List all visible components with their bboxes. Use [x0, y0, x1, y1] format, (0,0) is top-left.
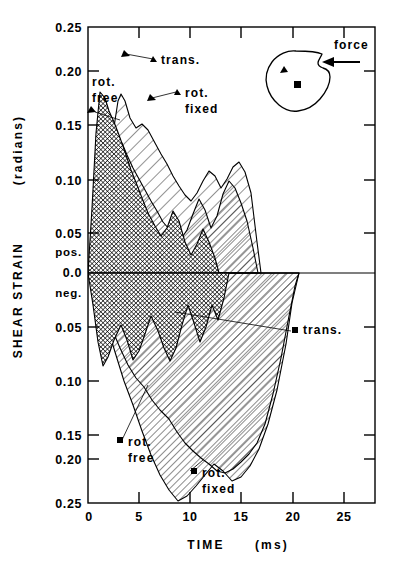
chart-svg: 0.25 0.20 0.15 0.10 0.05 pos. 0.0 neg. 0… [0, 0, 395, 567]
y-negative-label: neg. [55, 287, 82, 299]
y-tick-label: 0.05 [55, 227, 82, 241]
annotation-label-rot-free-upper-line2: free [92, 91, 118, 105]
y-tick-label: 0.20 [55, 453, 82, 467]
shear-strain-figure: 0.25 0.20 0.15 0.10 0.05 pos. 0.0 neg. 0… [0, 0, 395, 567]
x-tick-label: 25 [336, 510, 351, 524]
annotation-label-trans-upper: trans. [161, 53, 200, 67]
square-sensor-marker [294, 81, 301, 88]
y-tick-label: 0.10 [55, 375, 82, 389]
y-axis-title-units: (radians) [11, 115, 25, 185]
x-tick-label: 20 [285, 510, 300, 524]
y-tick-label: 0.20 [55, 65, 82, 79]
y-zero-label: 0.0 [63, 266, 82, 280]
force-label: force [334, 38, 369, 52]
annotation-label-rot-fixed-upper-line2: fixed [185, 102, 219, 116]
x-tick-label: 10 [182, 510, 197, 524]
y-tick-label: 0.25 [55, 21, 82, 35]
annotation-label-trans-lower: trans. [303, 323, 342, 337]
x-axis-title-main: TIME [187, 538, 224, 552]
annotation-label-rot-free-lower-line1: rot. [128, 435, 152, 449]
x-tick-label: 5 [135, 510, 143, 524]
x-axis-title-units: (ms) [255, 538, 289, 552]
y-tick-label: 0.10 [55, 174, 82, 188]
annotation-marker-square [117, 437, 123, 443]
annotation-marker-square [292, 327, 298, 333]
annotation-label-rot-fixed-lower-line2: fixed [202, 482, 236, 496]
y-tick-label: 0.15 [55, 429, 82, 443]
annotation-label-rot-fixed-upper-line1: rot. [185, 86, 209, 100]
y-tick-label: 0.15 [55, 119, 82, 133]
y-axis-title-main: SHEAR STRAIN [11, 242, 25, 358]
x-tick-label: 0 [85, 510, 93, 524]
x-tick-label: 15 [233, 510, 248, 524]
annotation-marker-square [191, 468, 197, 474]
annotation-label-rot-free-upper-line1: rot. [92, 75, 116, 89]
y-positive-label: pos. [55, 246, 82, 258]
annotation-label-rot-fixed-lower-line1: rot. [202, 466, 226, 480]
y-tick-label: 0.25 [55, 497, 82, 511]
annotation-label-rot-free-lower-line2: free [128, 451, 154, 465]
y-tick-label: 0.05 [55, 321, 82, 335]
